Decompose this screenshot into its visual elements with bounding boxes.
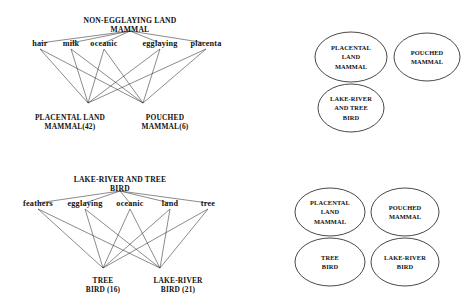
mammal-attribute-placenta: placenta [190,39,221,49]
venn-bottom-placental-line1: PLACENTAL [310,198,350,207]
bird-attribute-feathers: feathers [23,199,53,209]
bird-leaf-lake-river-bird-line2: BIRD (21) [153,285,202,294]
bird-attribute-tree: tree [201,199,215,209]
figure-canvas: NON-EGGLAYING LAND MAMMAL hair milk ocea… [0,0,476,304]
mammal-top-concept-line2: MAMMAL [84,25,177,34]
mammal-top-concept-line1: NON-EGGLAYING LAND [84,16,177,25]
bird-top-concept-label: LAKE-RIVER AND TREE BIRD [74,175,167,194]
venn-top-lrtb-line2: AND TREE [330,103,372,112]
bird-top-concept-line1: LAKE-RIVER AND TREE [74,175,167,184]
venn-bottom-tree-bird-line1: TREE [321,253,339,262]
bird-attribute-oceanic: oceanic [116,199,143,209]
mammal-leaf-placental-land-line1: PLACENTAL LAND [35,113,105,122]
bird-leaf-lake-river-bird: LAKE-RIVER BIRD (21) [153,276,202,294]
mammal-leaf-pouched-line1: POUCHED [142,113,189,122]
venn-bottom-lake-river-bird-line2: BIRD [384,262,426,271]
mammal-leaf-pouched-line2: MAMMAL(6) [142,122,189,131]
venn-bottom-label-pouched-mammal: POUCHED MAMMAL [389,203,422,222]
bird-attribute-egglaying: egglaying [67,199,102,209]
venn-top-placental-line2: LAND [331,52,371,61]
bird-attribute-land: land [162,199,178,209]
venn-top-label-lake-river-and-tree-bird: LAKE-RIVER AND TREE BIRD [330,94,372,122]
venn-bottom-placental-line3: MAMMAL [310,217,350,226]
venn-top-placental-line3: MAMMAL [331,62,371,71]
venn-bottom-pouched-line2: MAMMAL [389,212,422,221]
venn-bottom-pouched-line1: POUCHED [389,203,422,212]
venn-top-lrtb-line3: BIRD [330,113,372,122]
venn-top-lrtb-line1: LAKE-RIVER [330,94,372,103]
bird-leaf-tree-bird-line2: BIRD (16) [86,285,120,294]
mammal-attribute-egglaying: egglaying [142,39,177,49]
mammal-leaf-pouched: POUCHED MAMMAL(6) [142,113,189,131]
venn-bottom-label-tree-bird: TREE BIRD [321,253,339,272]
mammal-attribute-hair: hair [32,39,47,49]
venn-top-label-pouched-mammal: POUCHED MAMMAL [411,48,444,67]
mammal-attribute-oceanic: oceanic [90,39,117,49]
venn-bottom-tree-bird-line2: BIRD [321,262,339,271]
venn-top-pouched-line2: MAMMAL [411,57,444,66]
mammal-top-concept-label: NON-EGGLAYING LAND MAMMAL [84,16,177,35]
venn-bottom-lake-river-bird-line1: LAKE-RIVER [384,253,426,262]
venn-top-pouched-line1: POUCHED [411,48,444,57]
venn-top-label-placental-land-mammal: PLACENTAL LAND MAMMAL [331,43,371,71]
venn-bottom-label-lake-river-bird: LAKE-RIVER BIRD [384,253,426,272]
bird-leaf-lake-river-bird-line1: LAKE-RIVER [153,276,202,285]
venn-top-placental-line1: PLACENTAL [331,43,371,52]
venn-bottom-label-placental-land-mammal: PLACENTAL LAND MAMMAL [310,198,350,226]
mammal-leaf-placental-land-line2: MAMMAL(42) [35,122,105,131]
bird-leaf-tree-bird: TREE BIRD (16) [86,276,120,294]
bird-leaf-tree-bird-line1: TREE [86,276,120,285]
mammal-leaf-placental-land: PLACENTAL LAND MAMMAL(42) [35,113,105,131]
mammal-attribute-milk: milk [63,39,80,49]
venn-bottom-placental-line2: LAND [310,207,350,216]
bird-top-concept-line2: BIRD [74,184,167,193]
